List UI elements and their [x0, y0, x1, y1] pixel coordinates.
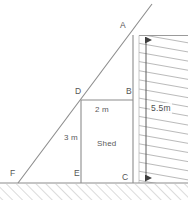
region-label-shed: Shed [97, 140, 116, 148]
geometry-diagram: A B C D E F 2 m 3 m 5.5m Shed [0, 0, 188, 211]
point-label-E: E [74, 169, 80, 178]
point-label-F: F [10, 169, 15, 178]
point-label-D: D [75, 87, 81, 96]
point-label-C: C [122, 173, 128, 182]
point-label-A: A [120, 21, 126, 30]
ground-hatch-region [0, 184, 188, 200]
dimension-label-3m: 3 m [64, 134, 78, 142]
dimension-label-2m: 2 m [95, 106, 109, 114]
dimension-label-5-5m: 5.5m [150, 103, 172, 114]
point-label-B: B [126, 87, 132, 96]
